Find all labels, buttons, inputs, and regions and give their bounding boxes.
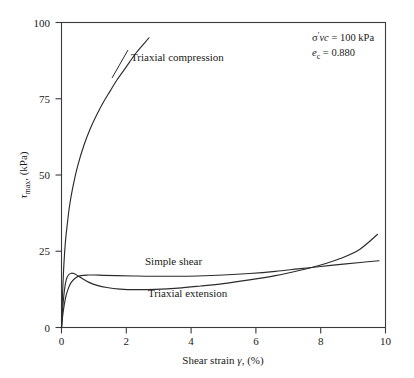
label-simple-shear: Simple shear	[145, 255, 202, 267]
x-axis-title-unit: , (%)	[242, 354, 264, 367]
chart-figure: 0 25 50 75 100 0 2 4 6 8 10 Shear strain…	[0, 0, 414, 378]
y-tick-label-25: 25	[39, 245, 51, 257]
plot-frame	[62, 23, 386, 328]
curve-triaxial-compression	[62, 38, 149, 328]
y-axis-title: τmax, (kPa)	[17, 151, 32, 198]
annotation-e-value: = 0.880	[320, 47, 355, 58]
x-axis-title-main: Shear strain	[182, 354, 237, 366]
y-axis-ticks	[56, 23, 62, 328]
compression-label-leader	[112, 50, 128, 78]
y-axis-title-sub: max	[23, 181, 32, 195]
y-tick-label-75: 75	[39, 93, 51, 105]
y-tick-label-100: 100	[34, 17, 51, 29]
y-axis-title-unit: , (kPa)	[17, 151, 30, 181]
x-tick-label-10: 10	[380, 335, 392, 347]
curve-triaxial-extension	[62, 234, 378, 327]
annotation-vc: vc	[319, 32, 329, 43]
x-axis-ticks	[62, 328, 386, 334]
label-triaxial-extension: Triaxial extension	[148, 287, 228, 299]
y-tick-label-50: 50	[39, 169, 51, 181]
x-tick-label-8: 8	[318, 335, 324, 347]
x-tick-label-2: 2	[124, 335, 130, 347]
x-tick-label-6: 6	[253, 335, 259, 347]
y-tick-label-0: 0	[45, 322, 51, 334]
x-tick-label-0: 0	[59, 335, 65, 347]
plot-canvas: 0 25 50 75 100 0 2 4 6 8 10 Shear strain…	[0, 0, 414, 378]
label-triaxial-compression: Triaxial compression	[131, 51, 224, 63]
annotation-sigma-line: σ′vc = 100 kPa	[312, 31, 374, 43]
annotation-void-ratio-line: ec = 0.880	[312, 47, 355, 61]
x-axis-title: Shear strain γ, (%)	[182, 354, 264, 367]
annotation-sigma-value: = 100 kPa	[329, 32, 375, 43]
x-tick-label-4: 4	[188, 335, 194, 347]
